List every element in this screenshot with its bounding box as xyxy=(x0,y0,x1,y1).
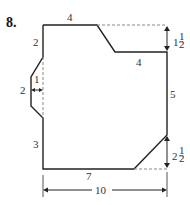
label-step-width: 4 xyxy=(136,56,142,68)
svg-text:2: 2 xyxy=(179,152,185,164)
label-notch-depth: 1 xyxy=(34,73,40,85)
label-step-offset-whole: 1 xyxy=(173,36,179,48)
label-notch-height: 2 xyxy=(20,84,26,96)
label-right: 5 xyxy=(170,88,176,100)
label-left-lower: 3 xyxy=(33,138,39,150)
label-overall-width: 10 xyxy=(95,184,107,196)
svg-text:2: 2 xyxy=(179,38,185,50)
label-left-upper: 2 xyxy=(33,36,39,48)
label-corner-cut-whole: 2 xyxy=(172,150,178,162)
label-bottom: 7 xyxy=(86,170,92,182)
problem-number: 8. xyxy=(6,15,17,30)
label-top: 4 xyxy=(67,11,73,23)
geometry-figure: 8. 4 2 1 2 3 1 1 2 4 5 2 1 2 7 10 xyxy=(0,0,190,205)
figure-outline xyxy=(31,25,167,169)
